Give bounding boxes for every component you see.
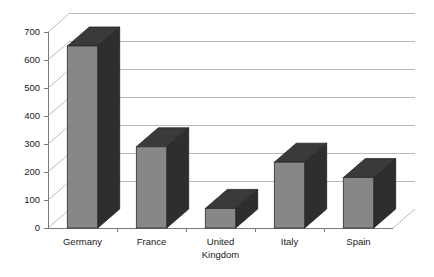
grid-depth-line-700 <box>48 13 70 32</box>
bar-chart: 0100200300400500600700GermanyFranceUnite… <box>0 0 434 277</box>
x-axis-label-germany: Germany <box>63 236 102 247</box>
grid-depth-line-600 <box>48 41 70 60</box>
floor-right-edge <box>393 209 415 228</box>
bar-italy <box>274 143 326 228</box>
bar-united-kingdom <box>205 189 257 228</box>
chart-canvas: 0100200300400500600700GermanyFranceUnite… <box>0 0 434 277</box>
y-axis-label-200: 200 <box>24 166 40 177</box>
grid-depth-line-500 <box>48 69 70 88</box>
y-axis-label-100: 100 <box>24 194 40 205</box>
bar-front-face <box>205 208 235 228</box>
x-axis-label-france: France <box>137 236 167 247</box>
y-axis-label-700: 700 <box>24 26 40 37</box>
grid-depth-line-100 <box>48 181 70 200</box>
grid-depth-line-0 <box>48 209 70 228</box>
grid-depth-line-400 <box>48 97 70 116</box>
bar-front-face <box>136 147 166 228</box>
x-axis-label-united-kingdom: United <box>207 236 234 247</box>
grid-depth-line-300 <box>48 125 70 144</box>
y-axis-label-300: 300 <box>24 138 40 149</box>
bar-germany <box>67 27 119 228</box>
bar-france <box>136 128 188 228</box>
bar-front-face <box>343 178 373 228</box>
bar-front-face <box>67 46 97 228</box>
x-axis-label-italy: Italy <box>281 236 299 247</box>
grid-depth-line-200 <box>48 153 70 172</box>
bar-front-face <box>274 162 304 228</box>
x-axis-label-united-kingdom: Kingdom <box>202 249 240 260</box>
y-axis-label-600: 600 <box>24 54 40 65</box>
bar-spain <box>343 159 395 228</box>
x-axis-label-spain: Spain <box>346 236 370 247</box>
y-axis-label-0: 0 <box>35 222 40 233</box>
y-axis-label-400: 400 <box>24 110 40 121</box>
bar-side-face <box>98 27 120 228</box>
y-axis-label-500: 500 <box>24 82 40 93</box>
